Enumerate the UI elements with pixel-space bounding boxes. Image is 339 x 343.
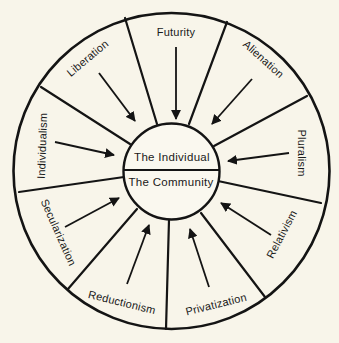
- label-pluralism: Pluralism: [296, 129, 308, 176]
- arrow-secularization: [65, 198, 119, 227]
- label-individualism: Individualism: [35, 113, 49, 180]
- label-secularization: Secularization: [39, 197, 79, 268]
- arrow-individualism: [55, 142, 114, 155]
- arrow-privatization: [190, 229, 209, 287]
- arrow-pluralism: [228, 153, 289, 161]
- divider-privatization-reductionism: [166, 220, 169, 329]
- label-liberation: Liberation: [64, 37, 110, 79]
- divider-alienation-pluralism: [214, 96, 307, 146]
- divider-reductionism-secularization: [68, 209, 137, 289]
- core-circle: [124, 124, 220, 220]
- label-futurity: Futurity: [157, 26, 196, 38]
- core-label-community: The Community: [128, 176, 213, 188]
- arrow-reductionism: [127, 225, 149, 284]
- arrow-relativism: [221, 203, 271, 235]
- forces-wheel-diagram: The Individual The Community Futurity Al…: [0, 0, 339, 343]
- arrow-alienation: [212, 79, 252, 124]
- divider-pluralism-relativism: [218, 181, 321, 203]
- arrow-liberation: [99, 73, 135, 121]
- core-label-individual: The Individual: [134, 151, 210, 163]
- divider-liberation-futurity: [125, 18, 157, 124]
